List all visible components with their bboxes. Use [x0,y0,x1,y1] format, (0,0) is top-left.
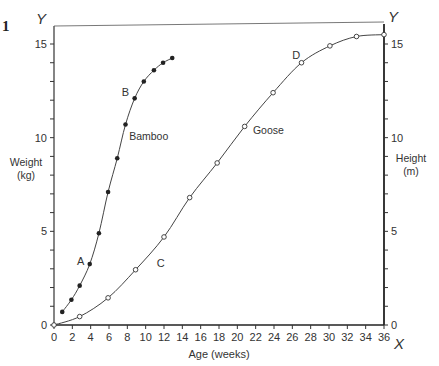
data-point [87,262,92,267]
x-tick-label: 22 [250,331,262,343]
data-point [106,296,111,301]
x-tick-label: 36 [378,331,390,343]
x-tick-label: 16 [195,331,207,343]
data-point [97,231,102,236]
y-axis-label-left: (kg) [17,169,35,181]
y-axis-label-right: Height [396,152,426,164]
x-tick-label: 20 [231,331,243,343]
annotation-label: D [292,49,300,61]
x-tick-label: 32 [341,331,353,343]
y-axis-letter-left: Y [36,10,47,27]
data-point [132,96,137,101]
y-tick-label-right: 5 [391,225,397,237]
x-axis-label: Age (weeks) [188,348,249,360]
y-axis-label-right: (m) [403,165,419,177]
data-point [52,323,57,328]
data-point [162,235,167,240]
x-tick-label: 34 [360,331,372,343]
x-tick-label: 10 [140,331,152,343]
x-tick-label: 0 [51,331,57,343]
y-tick-label-left: 15 [35,38,47,50]
x-tick-label: 26 [286,331,298,343]
top-border [54,22,384,26]
y-tick-label-left: 10 [35,132,47,144]
y-tick-label-left: 0 [41,319,47,331]
data-point [299,60,304,65]
data-point [69,297,74,302]
figure-number: 1 [2,18,10,34]
data-point [77,283,82,288]
annotation-label: C [157,257,165,269]
x-tick-label: 28 [305,331,317,343]
data-point [115,156,120,161]
data-point [382,32,387,37]
axes: 0055101015150246810121416182022242628303… [10,8,427,360]
data-point [152,68,157,73]
data-point [328,44,333,49]
y-tick-label-right: 10 [391,132,403,144]
data-point [142,79,147,84]
data-point [77,314,82,319]
curve-bamboo [62,58,172,312]
x-tick-label: 24 [268,331,280,343]
x-tick-label: 8 [124,331,130,343]
data-point [133,267,138,272]
curve-goose [54,35,384,325]
curves [52,32,387,327]
x-tick-label: 14 [176,331,188,343]
annotation-label: A [77,255,85,267]
y-axis-label-left: Weight [10,156,43,168]
x-tick-label: 18 [213,331,225,343]
annotation-label: Goose [253,124,284,136]
x-tick-label: 12 [158,331,170,343]
data-point [161,60,166,65]
x-tick-label: 6 [106,331,112,343]
annotations: ABCDBambooGoose [77,49,300,269]
growth-chart: 1 00551010151502468101214161820222426283… [0,0,439,366]
x-tick-label: 4 [88,331,94,343]
data-point [271,90,276,95]
y-tick-label-right: 15 [391,38,403,50]
x-tick-label: 30 [323,331,335,343]
annotation-label: B [122,86,129,98]
data-point [123,122,128,127]
data-point [170,56,175,61]
x-tick-label: 2 [69,331,75,343]
data-point [106,190,111,195]
data-point [187,195,192,200]
x-axis-letter: X [393,335,405,352]
y-tick-label-right: 0 [391,319,397,331]
y-tick-label-left: 5 [41,225,47,237]
annotation-label: Bamboo [129,130,168,142]
data-point [60,310,65,315]
y-axis-letter-right: Y [388,8,399,25]
data-point [215,161,220,166]
data-point [242,124,247,129]
data-point [354,34,359,39]
